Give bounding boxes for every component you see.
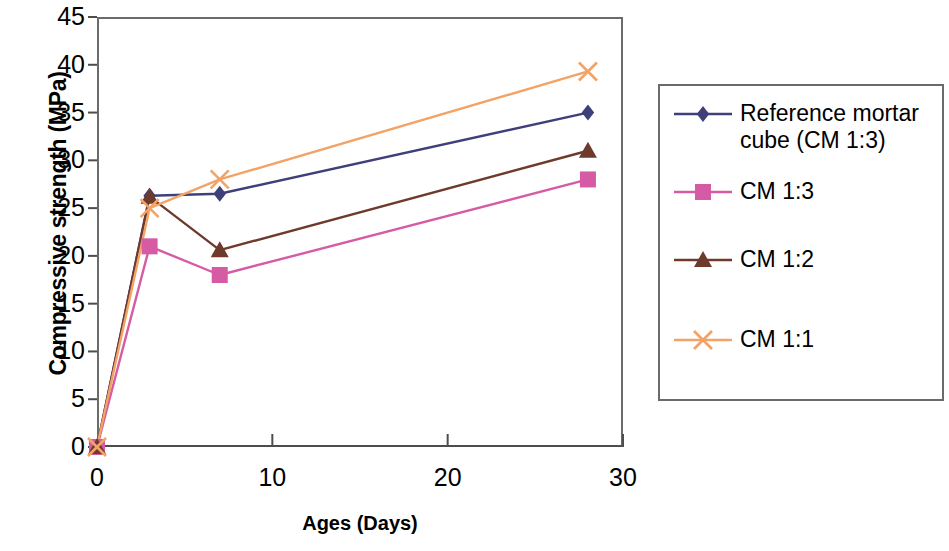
x-tick-label: 10 <box>232 465 312 490</box>
y-tick-label: 5 <box>39 386 85 411</box>
data-point-square <box>695 184 711 200</box>
y-tick-label: 35 <box>39 100 85 125</box>
legend-marker-diamond-icon <box>672 100 734 126</box>
data-point-diamond <box>697 106 709 122</box>
legend-marker-square-icon <box>672 178 734 204</box>
y-tick-label: 40 <box>39 52 85 77</box>
plot-area-frame <box>97 17 623 447</box>
y-tick-label: 30 <box>39 147 85 172</box>
legend: Reference mortar cube (CM 1:3)CM 1:3CM 1… <box>658 84 944 401</box>
y-tick-label: 25 <box>39 195 85 220</box>
legend-label: CM 1:2 <box>740 246 814 273</box>
legend-entry[interactable]: Reference mortar cube (CM 1:3) <box>672 100 919 154</box>
legend-label: CM 1:1 <box>740 326 814 353</box>
legend-entry[interactable]: CM 1:1 <box>672 326 814 353</box>
legend-marker-cross-icon <box>672 326 734 352</box>
y-tick-label: 0 <box>39 434 85 459</box>
legend-marker-triangle-icon <box>672 246 734 272</box>
x-tick-label: 30 <box>583 465 663 490</box>
y-tick-label: 15 <box>39 291 85 316</box>
figure-bottom-margin <box>0 540 949 551</box>
legend-entry[interactable]: CM 1:2 <box>672 246 814 273</box>
x-tick-label: 0 <box>57 465 137 490</box>
x-tick-label: 20 <box>408 465 488 490</box>
legend-label: Reference mortar cube (CM 1:3) <box>740 100 919 154</box>
y-tick-label: 10 <box>39 338 85 363</box>
legend-entry[interactable]: CM 1:3 <box>672 178 814 205</box>
y-tick-label: 20 <box>39 243 85 268</box>
legend-label: CM 1:3 <box>740 178 814 205</box>
x-axis-title: Ages (Days) <box>97 512 623 535</box>
y-tick-label: 45 <box>39 4 85 29</box>
chart-figure: Compressive strength (MPa) 4540353025201… <box>0 0 949 551</box>
